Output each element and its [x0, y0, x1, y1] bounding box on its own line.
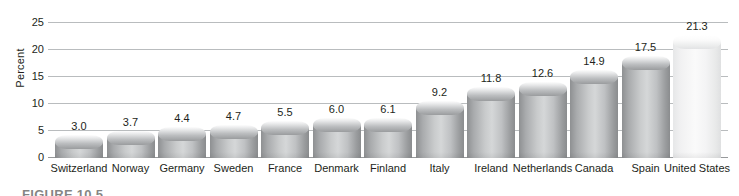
bar-italy [416, 108, 464, 158]
gridline-25 [48, 22, 728, 23]
bar-finland [364, 125, 412, 158]
y-tick-label-10: 10 [26, 98, 44, 109]
value-label-italy: 9.2 [410, 87, 470, 98]
y-tick-label-20: 20 [26, 44, 44, 55]
y-axis-title: Percent [14, 30, 26, 106]
value-label-canada: 14.9 [564, 56, 624, 67]
y-tick-label-5: 5 [26, 125, 44, 136]
value-label-united-states: 21.3 [667, 21, 727, 32]
y-tick-label-25: 25 [26, 17, 44, 28]
value-label-netherlands: 12.6 [513, 68, 573, 79]
bar-ireland [467, 94, 515, 158]
figure-chart: Percent 25 20 15 10 5 0 3.0Switzerland3.… [0, 0, 739, 196]
figure-caption: FIGURE 10.5 [22, 188, 103, 196]
value-label-finland: 6.1 [358, 104, 418, 115]
bar-spain [622, 63, 670, 158]
value-label-spain: 17.5 [616, 42, 676, 53]
bar-norway [107, 138, 155, 158]
y-tick-label-15: 15 [26, 71, 44, 82]
bar-switzerland [55, 142, 103, 158]
bar-sweden [210, 132, 258, 158]
category-label-united-states: United States [652, 162, 739, 174]
bar-united-states [673, 42, 721, 158]
bar-denmark [313, 125, 361, 158]
bar-france [261, 128, 309, 158]
bar-germany [158, 134, 206, 158]
bar-netherlands [519, 89, 567, 158]
bar-canada [570, 77, 618, 158]
